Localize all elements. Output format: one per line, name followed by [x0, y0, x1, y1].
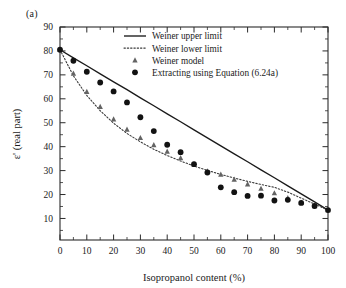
data-point-circle — [298, 200, 304, 206]
data-point-triangle — [151, 142, 156, 147]
legend-label: Extracting using Equation (6.24a) — [152, 68, 278, 79]
data-point-triangle — [84, 89, 89, 94]
x-tick-label: 20 — [109, 246, 119, 256]
legend-marker-circle — [132, 69, 138, 75]
data-point-triangle — [98, 104, 103, 109]
data-point-triangle — [111, 116, 116, 121]
data-point-circle — [57, 47, 63, 53]
data-point-triangle — [165, 149, 170, 154]
y-axis-tick-labels: 102030405060708090 — [44, 22, 54, 223]
data-point-triangle — [138, 135, 143, 140]
x-tick-label: 40 — [162, 246, 172, 256]
x-tick-label: 50 — [189, 246, 199, 256]
y-tick-label: 70 — [44, 70, 54, 80]
x-tick-label: 100 — [321, 246, 336, 256]
data-point-triangle — [258, 186, 263, 191]
data-point-circle — [164, 142, 170, 148]
x-tick-label: 70 — [243, 246, 253, 256]
y-tick-label: 80 — [44, 46, 54, 56]
figure-container: (a) 0102030405060708090100 1020304050607… — [0, 0, 346, 288]
data-point-circle — [138, 114, 144, 120]
data-point-circle — [84, 69, 90, 75]
data-point-circle — [97, 80, 103, 86]
x-tick-label: 0 — [58, 246, 63, 256]
x-axis-tick-labels: 0102030405060708090100 — [58, 246, 336, 256]
x-tick-label: 10 — [82, 246, 92, 256]
legend-label: Weiner lower limit — [152, 44, 222, 54]
data-point-circle — [231, 189, 237, 195]
x-tick-label: 90 — [296, 246, 306, 256]
data-point-circle — [178, 149, 184, 155]
data-point-circle — [312, 203, 318, 209]
legend-marker-triangle — [132, 57, 137, 62]
data-point-circle — [124, 99, 130, 105]
data-point-circle — [151, 128, 157, 134]
data-point-circle — [71, 58, 77, 64]
y-tick-label: 10 — [44, 214, 54, 224]
y-tick-label: 20 — [44, 190, 54, 200]
data-point-circle — [258, 193, 264, 199]
legend-label: Weiner model — [152, 56, 205, 66]
x-tick-label: 80 — [270, 246, 280, 256]
data-point-circle — [205, 170, 211, 176]
data-point-circle — [272, 198, 278, 204]
data-point-circle — [218, 184, 224, 190]
legend-label: Weiner upper limit — [152, 31, 222, 41]
data-point-triangle — [272, 190, 277, 195]
y-tick-label: 30 — [44, 166, 54, 176]
y-axis-title: ε' (real part) — [11, 108, 23, 159]
data-point-circle — [245, 193, 251, 199]
data-point-triangle — [124, 127, 129, 132]
y-tick-label: 60 — [44, 94, 54, 104]
data-point-circle — [285, 197, 291, 203]
y-tick-label: 50 — [44, 118, 54, 128]
x-tick-label: 30 — [136, 246, 146, 256]
y-tick-label: 90 — [44, 22, 54, 32]
chart-plot-area: 0102030405060708090100 10203040506070809… — [0, 0, 346, 288]
data-point-circle — [325, 207, 331, 213]
chart-legend: Weiner upper limitWeiner lower limitWein… — [124, 31, 278, 78]
data-point-triangle — [178, 155, 183, 160]
data-point-circle — [111, 88, 117, 94]
data-point-circle — [191, 161, 197, 167]
x-axis-title: Isopropanol content (%) — [143, 272, 246, 284]
y-tick-label: 40 — [44, 142, 54, 152]
x-tick-label: 60 — [216, 246, 226, 256]
data-point-triangle — [232, 177, 237, 182]
chart-svg: 0102030405060708090100 10203040506070809… — [0, 0, 346, 288]
